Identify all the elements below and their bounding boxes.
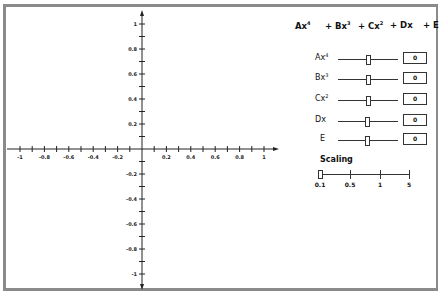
x-tick-label: 0.8 [235, 154, 244, 160]
coefficient-d-slider[interactable] [338, 121, 398, 122]
coefficient-b-input[interactable]: 0 [403, 72, 427, 84]
y-tick-label: 1 [134, 21, 138, 27]
formula-term-c: + Cx2 [358, 20, 383, 31]
x-tick-label: -1 [17, 154, 23, 160]
x-tick-label: -0.4 [88, 154, 99, 160]
coefficient-row-a: Ax4 0 [315, 52, 435, 66]
formula-term-e: + E [423, 20, 439, 30]
coefficient-row-e: E 0 [315, 133, 435, 147]
x-tick-label: -0.6 [63, 154, 74, 160]
y-tick-label: 0.2 [128, 121, 137, 127]
scaling-tick-label: 1 [378, 181, 382, 188]
coefficient-d-input[interactable]: 0 [403, 114, 427, 126]
y-tick-label: -1 [131, 271, 137, 277]
coefficient-b-slider[interactable] [338, 79, 398, 80]
y-axis-arrow-down-icon [140, 284, 144, 290]
coefficient-c-slider[interactable] [338, 100, 398, 101]
slider-thumb[interactable] [366, 55, 371, 65]
x-axis-arrow-icon [273, 147, 279, 151]
x-tick-label: -0.8 [39, 154, 50, 160]
scaling-tick-label: 0.5 [345, 181, 356, 188]
formula-term-b: + Bx3 [325, 20, 351, 31]
slider-thumb[interactable] [366, 96, 371, 106]
y-axis-arrow-up-icon [140, 10, 144, 16]
coefficient-e-slider[interactable] [338, 140, 398, 141]
coefficient-label: E [320, 133, 325, 143]
y-tick-label: 0.4 [128, 96, 137, 102]
formula-term-a: Ax4 [295, 20, 311, 31]
scaling-tick [409, 170, 410, 179]
scaling-tick-label: 0.1 [315, 181, 326, 188]
y-tick-label: 0.8 [128, 46, 137, 52]
x-tick-label: 0.2 [162, 154, 171, 160]
scaling-slider-thumb[interactable] [318, 170, 323, 179]
coefficient-a-slider[interactable] [338, 59, 398, 60]
coefficient-row-d: Dx 0 [315, 114, 435, 128]
coordinate-graph: -1-0.8-0.6-0.4-0.20.20.40.60.81 10.80.60… [0, 0, 443, 296]
y-tick-label: -0.6 [126, 221, 137, 227]
coefficient-label: Cx2 [315, 93, 329, 103]
scaling-tick-label: 5 [407, 181, 411, 188]
slider-thumb[interactable] [365, 117, 370, 127]
formula-term-d: + Dx [390, 20, 413, 30]
x-tick-label: 1 [262, 154, 266, 160]
scaling-label: Scaling [320, 155, 353, 164]
y-tick-label: -0.8 [126, 246, 137, 252]
coefficient-label: Ax4 [315, 52, 328, 62]
scaling-tick [350, 170, 351, 179]
scaling-tick [380, 170, 381, 179]
y-tick-label: -0.4 [126, 196, 137, 202]
coefficient-c-input[interactable]: 0 [403, 93, 427, 105]
y-tick-label: -0.2 [126, 171, 137, 177]
coefficient-label: Bx3 [315, 72, 328, 82]
scaling-slider[interactable] [320, 174, 410, 175]
coefficient-e-input[interactable]: 0 [403, 133, 427, 145]
slider-thumb[interactable] [366, 75, 371, 85]
coefficient-row-c: Cx2 0 [315, 93, 435, 107]
axes [7, 10, 279, 290]
coefficient-a-input[interactable]: 0 [403, 52, 427, 64]
slider-thumb[interactable] [365, 136, 370, 146]
y-tick-label: 0.6 [128, 71, 137, 77]
x-tick-label: -0.2 [112, 154, 123, 160]
x-tick-label: 0.6 [211, 154, 220, 160]
coefficient-label: Dx [315, 114, 326, 124]
coefficient-row-b: Bx3 0 [315, 72, 435, 86]
x-tick-label: 0.4 [186, 154, 195, 160]
